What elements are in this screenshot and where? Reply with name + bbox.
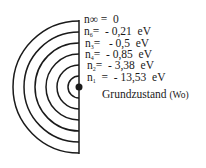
ground-state-label: Grundzustand (Wo) bbox=[102, 89, 189, 101]
orbit-arc-5 bbox=[24, 32, 79, 142]
nucleus-dot bbox=[76, 84, 83, 91]
level-label-inf: n∞ = 0 bbox=[84, 14, 119, 26]
orbit-arc-3 bbox=[46, 54, 79, 120]
level-label-1: n1 = - 13,53 eV bbox=[87, 72, 166, 84]
